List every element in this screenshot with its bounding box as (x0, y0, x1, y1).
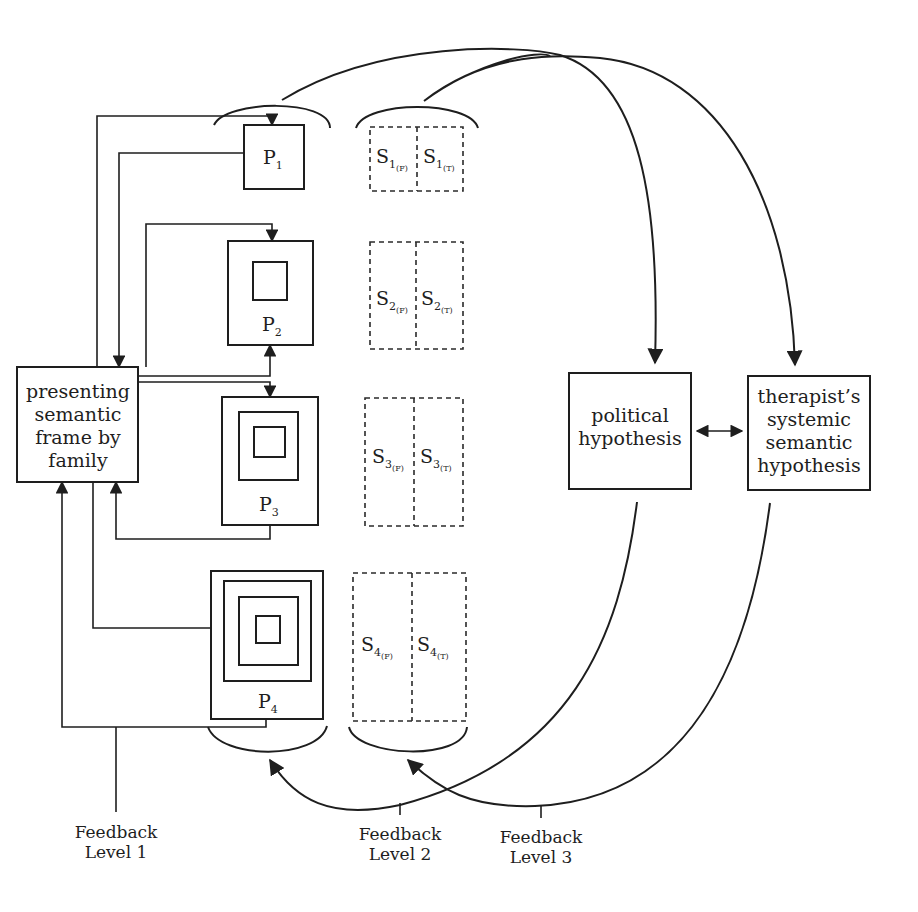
political-hypothesis-node: political hypothesis (569, 373, 691, 489)
therapist-line-1: therapist’s (758, 385, 861, 407)
lower-feedback-arcs (270, 502, 770, 810)
punctuation-p4: P4 (211, 571, 323, 719)
brace-bottom-punctuations (208, 726, 327, 752)
svg-text:S2(F): S2(F) (376, 287, 408, 315)
svg-text:S1(T): S1(T) (423, 145, 455, 173)
p3-index: 3 (272, 506, 279, 519)
family-frame-line-4: family (48, 449, 108, 471)
svg-text:Feedback: Feedback (359, 824, 442, 844)
svg-text:S3(T): S3(T) (420, 445, 452, 473)
punctuation-p3: P3 (222, 397, 318, 525)
therapist-line-2: systemic (767, 408, 851, 430)
brace-top-semantics (356, 107, 478, 128)
semantic-s1: S1(F) S1(T) (370, 127, 463, 191)
feedback-diagram: presenting semantic frame by family P1 P… (0, 0, 918, 912)
svg-text:S2(T): S2(T) (421, 287, 453, 315)
p2-base: P (262, 313, 275, 335)
punctuation-p1: P1 (244, 125, 304, 189)
svg-text:Level 2: Level 2 (369, 844, 432, 864)
p4-base: P (258, 690, 271, 712)
family-frame-line-1: presenting (26, 380, 130, 402)
svg-text:S3(F): S3(F) (372, 445, 404, 473)
therapist-hypothesis-node: therapist’s systemic semantic hypothesis (748, 376, 870, 490)
political-line-1: political (591, 404, 669, 426)
svg-text:S4(T): S4(T) (417, 633, 449, 661)
p2-index: 2 (275, 326, 282, 339)
svg-text:Level 3: Level 3 (510, 847, 573, 867)
p1-base: P (263, 146, 276, 168)
family-frame-node: presenting semantic frame by family (17, 367, 138, 482)
svg-text:Level 1: Level 1 (85, 842, 148, 862)
arc-to-therapist-hypothesis (424, 54, 795, 365)
svg-text:S1(F): S1(F) (376, 145, 408, 173)
family-frame-line-2: semantic (35, 403, 122, 425)
p4-index: 4 (271, 703, 278, 716)
svg-text:Feedback: Feedback (500, 827, 583, 847)
semantic-s3: S3(F) S3(T) (365, 398, 463, 526)
upper-feedback-arcs (282, 49, 795, 365)
p3-base: P (259, 493, 272, 515)
p1-index: 1 (276, 159, 283, 172)
political-line-2: hypothesis (578, 427, 681, 449)
therapist-line-4: hypothesis (757, 454, 860, 476)
punctuation-p2: P2 (228, 241, 313, 345)
semantic-s2: S2(F) S2(T) (370, 242, 463, 349)
feedback-level-3-label: Feedback Level 3 (500, 827, 583, 867)
family-frame-line-3: frame by (35, 426, 121, 448)
feedback-level-1-label: Feedback Level 1 (75, 822, 158, 862)
arc-to-political-hypothesis (282, 49, 656, 363)
therapist-line-3: semantic (766, 431, 853, 453)
svg-text:S4(F): S4(F) (361, 633, 393, 661)
feedback-level-2-label: Feedback Level 2 (359, 824, 442, 864)
semantic-s4: S4(F) S4(T) (353, 573, 466, 721)
svg-text:Feedback: Feedback (75, 822, 158, 842)
brace-bottom-semantics (349, 727, 467, 751)
